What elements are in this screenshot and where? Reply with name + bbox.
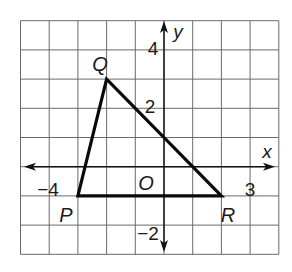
- coordinate-plane-figure: −4342−2 x y O PQR: [0, 0, 292, 272]
- vertex-label-r: R: [221, 204, 235, 226]
- vertex-label-q: Q: [92, 53, 108, 75]
- tick-label: −2: [137, 223, 159, 244]
- tick-label: 4: [148, 38, 159, 59]
- x-axis-label: x: [261, 141, 273, 162]
- tick-label: 3: [245, 179, 256, 200]
- origin-label: O: [138, 172, 154, 194]
- y-axis-label: y: [171, 21, 184, 42]
- vertex-label-p: P: [59, 204, 73, 226]
- tick-label: 2: [145, 96, 156, 117]
- tick-label: −4: [37, 179, 59, 200]
